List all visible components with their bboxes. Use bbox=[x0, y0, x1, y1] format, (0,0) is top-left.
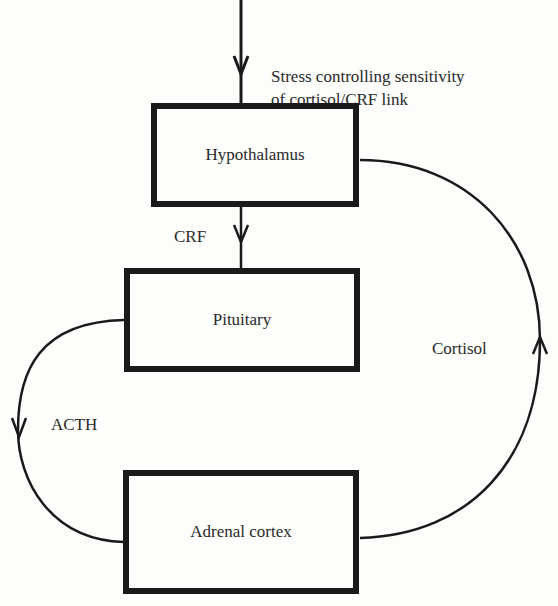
acth-label: ACTH bbox=[51, 414, 97, 435]
stress-label-line1: Stress controlling sensitivity bbox=[271, 66, 465, 87]
cortisol-label: Cortisol bbox=[432, 338, 487, 359]
hypothalamus-label: Hypothalamus bbox=[205, 145, 304, 165]
crf-label: CRF bbox=[174, 226, 206, 247]
adrenal-cortex-box: Adrenal cortex bbox=[123, 470, 359, 594]
hypothalamus-box: Hypothalamus bbox=[151, 103, 359, 207]
pituitary-box: Pituitary bbox=[124, 268, 360, 372]
pituitary-label: Pituitary bbox=[213, 310, 272, 330]
adrenal-cortex-label: Adrenal cortex bbox=[190, 522, 291, 542]
